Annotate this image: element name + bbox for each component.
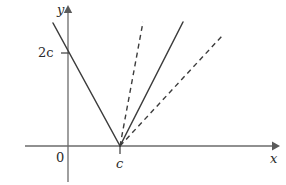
y-axis-label: y <box>57 3 64 16</box>
origin-label: 0 <box>56 151 64 164</box>
steep-dashed-line <box>120 22 143 146</box>
plot-canvas <box>0 0 286 185</box>
y-intercept-label: 2c <box>38 46 54 59</box>
left-branch-solid-line <box>53 23 120 146</box>
right-branch-solid-line <box>120 22 183 146</box>
math-figure: y x 2c 0 c <box>0 0 286 185</box>
x-intercept-label: c <box>116 157 123 170</box>
shallow-dashed-line <box>120 36 222 146</box>
x-axis-label: x <box>270 152 277 165</box>
arrow-right-icon <box>272 142 280 151</box>
arrow-up-icon <box>64 5 72 13</box>
